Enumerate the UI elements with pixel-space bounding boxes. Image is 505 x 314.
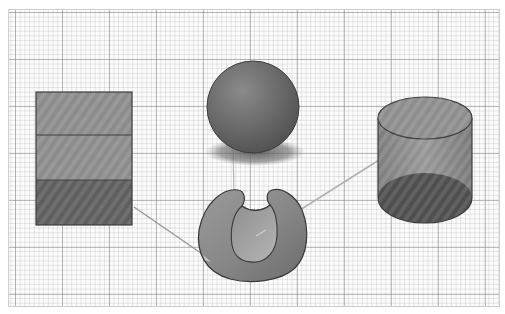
sphere-body: [207, 61, 299, 153]
bowl-inner-cut: [231, 205, 277, 262]
shapes-scene: [0, 0, 505, 314]
cut-hemisphere[interactable]: [198, 189, 306, 281]
cylinder[interactable]: [378, 97, 472, 223]
connector-cylinder-to-bowl: [300, 160, 379, 210]
rectangular-prism[interactable]: [36, 92, 132, 225]
sphere[interactable]: [205, 61, 305, 166]
